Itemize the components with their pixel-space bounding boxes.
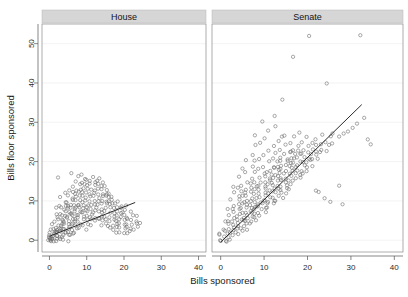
scatter-plot-svg: House01020304001020304050Senate010203040…	[0, 0, 408, 297]
plot-background-house	[42, 24, 206, 252]
panel-house: House01020304001020304050	[27, 10, 206, 272]
strip-label-senate: Senate	[293, 12, 322, 22]
x-tick-label-40: 40	[390, 263, 399, 272]
panel-senate: Senate010203040	[212, 10, 403, 272]
y-tick-label-20: 20	[27, 157, 36, 166]
x-tick-label-0: 0	[47, 263, 52, 272]
x-tick-label-0: 0	[218, 263, 223, 272]
y-axis-title: Bills floor sponsored	[5, 95, 16, 181]
x-tick-label-20: 20	[120, 263, 129, 272]
x-tick-label-10: 10	[82, 263, 91, 272]
x-tick-label-40: 40	[194, 263, 203, 272]
y-tick-label-50: 50	[27, 39, 36, 48]
x-tick-label-20: 20	[303, 263, 312, 272]
x-tick-label-30: 30	[346, 263, 355, 272]
x-tick-label-10: 10	[260, 263, 269, 272]
x-tick-label-30: 30	[157, 263, 166, 272]
y-tick-label-40: 40	[27, 78, 36, 87]
strip-label-house: House	[111, 12, 137, 22]
y-tick-label-10: 10	[27, 196, 36, 205]
chart-figure: House01020304001020304050Senate010203040…	[0, 0, 408, 297]
x-axis-title: Bills sponsored	[190, 275, 254, 286]
y-tick-label-30: 30	[27, 117, 36, 126]
y-tick-label-0: 0	[27, 237, 36, 242]
